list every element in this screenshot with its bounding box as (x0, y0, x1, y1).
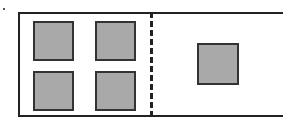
left-square (95, 71, 136, 111)
left-square (33, 21, 74, 61)
right-square (197, 43, 239, 85)
stray-mark (3, 8, 5, 10)
left-square (33, 71, 74, 111)
left-square (95, 21, 136, 61)
dashed-divider (150, 12, 153, 117)
